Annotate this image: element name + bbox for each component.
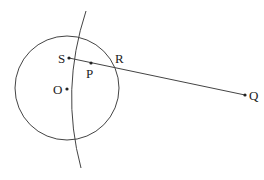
arc	[72, 11, 86, 168]
label-P: P	[86, 66, 93, 81]
label-Q: Q	[249, 88, 259, 103]
geometry-diagram: S P R O Q	[0, 0, 264, 180]
point-Q	[243, 93, 246, 96]
label-O: O	[53, 82, 62, 97]
point-S	[67, 56, 70, 59]
line-segment-SQ	[69, 58, 245, 95]
point-P	[89, 61, 92, 64]
label-S: S	[58, 51, 65, 66]
point-O	[65, 87, 68, 90]
label-R: R	[115, 51, 124, 66]
